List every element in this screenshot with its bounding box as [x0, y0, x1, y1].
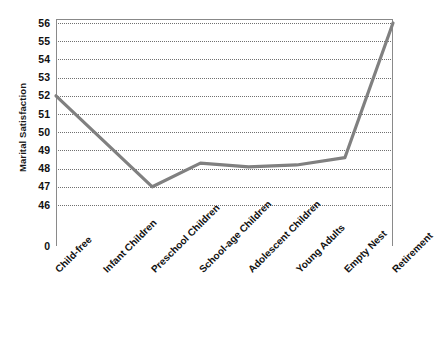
- y-tick-label-48: 48: [14, 163, 50, 174]
- y-tick-label-49: 49: [14, 145, 50, 156]
- y-tick-label-53: 53: [14, 72, 50, 83]
- y-tick-label-46: 46: [14, 200, 50, 211]
- y-axis-tick-labels: 56555453525150494847460: [14, 0, 50, 351]
- y-tick-label-52: 52: [14, 90, 50, 101]
- y-tick-label-47: 47: [14, 181, 50, 192]
- y-tick-label-50: 50: [14, 127, 50, 138]
- series-line-marital-satisfaction: [56, 19, 393, 246]
- series-polyline: [56, 23, 393, 187]
- y-tick-label-0: 0: [14, 241, 50, 252]
- plot-area: [56, 19, 393, 246]
- y-tick-label-51: 51: [14, 109, 50, 120]
- y-tick-label-54: 54: [14, 54, 50, 65]
- y-tick-label-55: 55: [14, 36, 50, 47]
- y-tick-label-56: 56: [14, 18, 50, 29]
- x-tick-label-retirement: Retirement: [390, 230, 435, 275]
